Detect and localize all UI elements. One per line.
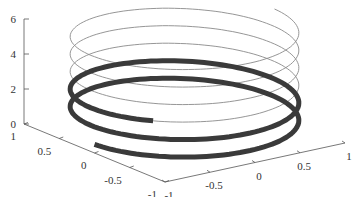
x-tick xyxy=(252,161,255,163)
helix-curves xyxy=(70,8,299,157)
z-tick-label: 2 xyxy=(11,83,17,95)
helix-3d-plot: 024610.50-0.5-1-1-0.500.51 xyxy=(0,0,364,197)
x-tick xyxy=(342,141,345,143)
x-tick-label: 0.5 xyxy=(297,160,311,172)
z-tick-label: 4 xyxy=(11,48,17,60)
x-tick xyxy=(207,170,210,172)
helix-lower-thick xyxy=(70,61,299,157)
x-tick-label: -0.5 xyxy=(205,179,223,191)
x-tick xyxy=(297,151,300,153)
y-tick-label: -1 xyxy=(148,188,157,197)
y-tick-label: 0.5 xyxy=(38,145,52,157)
y-tick-label: 0 xyxy=(81,159,87,171)
y-tick-label: 1 xyxy=(11,130,17,142)
z-tick-label: 0 xyxy=(11,118,17,130)
y-tick xyxy=(95,152,99,154)
x-tick-label: -1 xyxy=(164,189,173,197)
y-tick xyxy=(59,137,63,139)
y-tick-label: -0.5 xyxy=(104,174,122,186)
x-tick-label: 0 xyxy=(256,170,262,182)
x-tick-label: 1 xyxy=(346,150,352,162)
y-tick xyxy=(130,166,134,168)
z-tick-label: 6 xyxy=(11,13,17,25)
